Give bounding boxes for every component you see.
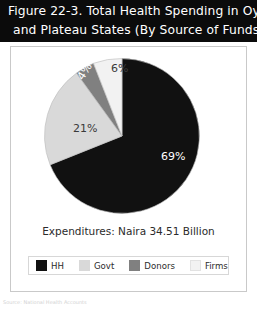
legend-item-govt: Govt	[79, 260, 114, 271]
legend-item-donors: Donors	[129, 260, 175, 271]
legend-label-firms: Firms	[205, 261, 228, 271]
pie-label-hh: 69%	[161, 150, 185, 163]
legend-item-hh: HH	[36, 260, 64, 271]
legend-swatch-govt	[79, 260, 90, 271]
figure-title-line-1: Figure 22-3. Total Health Spending in Oy…	[8, 2, 251, 21]
legend-swatch-hh	[36, 260, 47, 271]
legend-item-firms: Firms	[190, 260, 228, 271]
chart-frame: 69% 21% 4% 6% Expenditures: Naira 34.51 …	[10, 46, 247, 292]
figure-title-line-2: and Plateau States (By Source of Funds)	[8, 21, 251, 40]
pie-label-firms: 6%	[111, 62, 128, 75]
figure-container: Figure 22-3. Total Health Spending in Oy…	[0, 0, 257, 309]
chart-legend: HH Govt Donors Firms	[28, 256, 229, 275]
legend-label-donors: Donors	[144, 261, 175, 271]
legend-swatch-donors	[129, 260, 140, 271]
chart-caption: Expenditures: Naira 34.51 Billion	[11, 225, 246, 237]
pie-chart: 69% 21% 4% 6%	[43, 57, 201, 215]
legend-swatch-firms	[190, 260, 201, 271]
legend-label-hh: HH	[51, 261, 64, 271]
pie-label-govt: 21%	[73, 122, 97, 135]
pie-chart-svg	[43, 57, 201, 215]
footer-source-text: Source: National Health Accounts	[3, 299, 87, 305]
figure-title-bar: Figure 22-3. Total Health Spending in Oy…	[0, 0, 257, 42]
legend-label-govt: Govt	[94, 261, 114, 271]
